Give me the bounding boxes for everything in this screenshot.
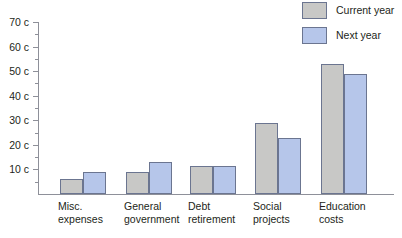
y-axis-tick-label: 40 c xyxy=(9,90,29,102)
bar-next-year xyxy=(278,138,301,195)
bar-current-year xyxy=(321,64,344,194)
x-axis-category-label: Generalgovernment xyxy=(124,200,179,226)
x-axis-category-label: Socialprojects xyxy=(253,200,290,226)
category-label-line-2: retirement xyxy=(188,213,235,226)
legend-swatch-current-year xyxy=(302,2,327,19)
x-axis-category-label: Debtretirement xyxy=(188,200,235,226)
category-label-line-2: projects xyxy=(253,213,290,226)
bar-next-year xyxy=(344,74,367,194)
legend-item-current-year: Current year xyxy=(302,2,394,19)
category-label-line-1: Misc. xyxy=(58,200,103,213)
y-axis-tick-label: 20 c xyxy=(9,139,29,151)
category-label-line-2: expenses xyxy=(58,213,103,226)
category-label-line-1: Social xyxy=(253,200,290,213)
x-axis-line xyxy=(38,194,394,195)
category-label-line-2: costs xyxy=(319,213,366,226)
x-axis-category-label: Misc.expenses xyxy=(58,200,103,226)
bar-next-year xyxy=(83,172,106,194)
y-axis-tick-label: 30 c xyxy=(9,114,29,126)
legend-label-current-year: Current year xyxy=(336,5,394,16)
category-label-line-1: General xyxy=(124,200,179,213)
bar-next-year xyxy=(213,166,236,194)
plot-area: 70 c60 c50 c40 c30 c20 c10 c xyxy=(38,22,394,194)
y-axis-tick-label: 50 c xyxy=(9,65,29,77)
bar-current-year xyxy=(126,172,149,194)
y-axis-tick-label: 60 c xyxy=(9,41,29,53)
bar-next-year xyxy=(149,162,172,194)
x-axis-category-label: Educationcosts xyxy=(319,200,366,226)
category-label-line-2: government xyxy=(124,213,179,226)
x-axis-category-labels: Misc.expensesGeneralgovernmentDebtretire… xyxy=(38,200,398,238)
y-axis-tick-label: 70 c xyxy=(9,16,29,28)
y-axis-tick-label: 10 c xyxy=(9,163,29,175)
category-label-line-1: Debt xyxy=(188,200,235,213)
category-label-line-1: Education xyxy=(319,200,366,213)
bar-current-year xyxy=(255,123,278,194)
bar-chart: Current year Next year 70 c60 c50 c40 c3… xyxy=(0,0,402,238)
bar-current-year xyxy=(190,166,213,194)
bar-current-year xyxy=(60,179,83,194)
bar-groups xyxy=(38,22,394,194)
